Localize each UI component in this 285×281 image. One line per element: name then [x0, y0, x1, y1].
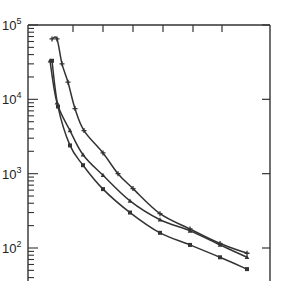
left-axis-ticks: [28, 25, 38, 278]
series-2: [50, 59, 249, 271]
series-0: [50, 36, 250, 255]
right-axis-ticks: [262, 25, 270, 248]
data-series: [48, 36, 250, 271]
y-axis-labels: 105104103102: [2, 16, 21, 256]
y-tick-label: 103: [2, 165, 21, 182]
chart: 105104103102: [0, 0, 285, 281]
y-tick-label: 102: [2, 239, 21, 256]
y-tick-label: 105: [2, 16, 21, 33]
top-axis-ticks: [73, 25, 222, 32]
y-tick-label: 104: [2, 90, 21, 107]
